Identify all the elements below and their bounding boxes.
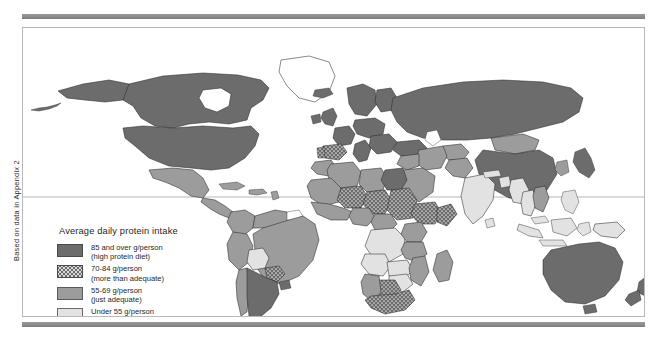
legend-label-just-line2: (just adequate) [91, 295, 142, 304]
legend-swatch-high-icon [57, 244, 83, 257]
legend-label-inadequate-line1: Under 55 g/person [91, 307, 154, 316]
bottom-rule [22, 322, 645, 327]
legend-label-just: 55-69 g/person (just adequate) [91, 286, 142, 304]
legend-item-more[interactable]: 70-84 g/person (more than adequate) [57, 264, 232, 282]
legend-swatch-inadequate-icon [57, 308, 83, 317]
figure-page: Based on data in Appendix 2 [0, 0, 665, 340]
region-java [539, 240, 567, 246]
region-sri-lanka [485, 218, 495, 228]
legend-title: Average daily protein intake [59, 226, 232, 236]
legend-label-high-line2: (high protein diet) [91, 252, 163, 261]
legend-swatch-just-icon [57, 287, 83, 300]
map-legend: Average daily protein intake 85 and over… [57, 226, 232, 317]
legend-swatch-more-icon [57, 265, 83, 278]
legend-item-high[interactable]: 85 and over g/person (high protein diet) [57, 243, 232, 261]
region-egypt [381, 168, 407, 190]
region-uruguay [279, 280, 291, 290]
legend-item-just[interactable]: 55-69 g/person (just adequate) [57, 286, 232, 304]
legend-label-just-line1: 55-69 g/person [91, 286, 142, 295]
region-bangladesh [499, 176, 511, 188]
region-kenya-uganda [401, 222, 427, 242]
legend-label-high: 85 and over g/person (high protein diet) [91, 243, 163, 261]
legend-label-more-line1: 70-84 g/person [91, 264, 142, 273]
map-frame: Average daily protein intake 85 and over… [22, 27, 645, 317]
legend-label-more: 70-84 g/person (more than adequate) [91, 264, 164, 282]
region-ireland [311, 114, 321, 124]
legend-label-inadequate: Under 55 g/person (inadequate protein di… [91, 307, 173, 317]
region-portugal [317, 147, 325, 158]
region-tasmania [583, 304, 597, 314]
top-rule [22, 14, 645, 19]
legend-label-high-line1: 85 and over g/person [91, 243, 163, 252]
region-niger [337, 186, 367, 208]
source-caption: Based on data in Appendix 2 [12, 141, 21, 281]
legend-label-inadequate-line2: (inadequate protein diet) [91, 316, 173, 317]
legend-label-more-line2: (more than adequate) [91, 274, 164, 283]
region-canada [123, 73, 269, 128]
legend-item-inadequate[interactable]: Under 55 g/person (inadequate protein di… [57, 307, 232, 317]
